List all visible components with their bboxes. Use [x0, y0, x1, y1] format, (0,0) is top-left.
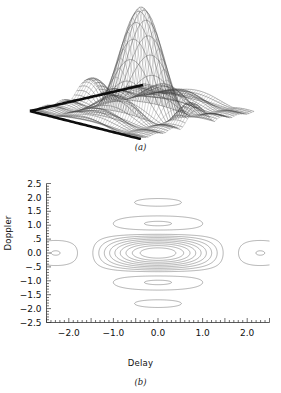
contour-lines: [47, 199, 270, 308]
y-tick-label: 1.5: [27, 206, 41, 216]
contour-level-0.4: [110, 239, 207, 267]
y-tick-label: −2.0: [20, 304, 42, 314]
contour-svg: 2.52.01.51.0.50.0−.5−1.0−1.5−2.0−2.5 −2.…: [0, 178, 281, 378]
y-tick-label: .5: [33, 234, 42, 244]
x-axis-label: Delay: [0, 358, 281, 368]
surface-mesh-lines: [30, 7, 255, 139]
x-axis-ticks: [47, 318, 270, 323]
y-tick-label: 0.0: [27, 248, 42, 258]
panel-a-surface-plot: [0, 0, 281, 140]
y-tick-label: −1.5: [20, 290, 42, 300]
x-tick-label: −1.0: [102, 328, 124, 338]
y-tick-label: −.5: [25, 262, 41, 272]
mesh-columns: [30, 7, 254, 138]
x-tick-label: 1.0: [195, 328, 210, 338]
y-axis-label: Doppler: [3, 203, 13, 263]
panel-b-contour-plot: 2.52.01.51.0.50.0−.5−1.0−1.5−2.0−2.5 −2.…: [0, 178, 281, 378]
y-axis-ticks: [47, 184, 52, 323]
y-axis-tick-labels: 2.52.01.51.0.50.0−.5−1.0−1.5−2.0−2.5: [20, 179, 42, 328]
y-tick-label: 2.0: [27, 193, 42, 203]
y-tick-label: −2.5: [20, 318, 42, 328]
y-tick-label: −1.0: [20, 276, 42, 286]
surface-mesh-svg: [0, 0, 281, 140]
y-tick-label: 2.5: [27, 179, 41, 189]
contour-level-0.2: [51, 221, 265, 284]
x-tick-label: 2.0: [240, 328, 255, 338]
contour-level-0.5: [115, 241, 201, 266]
x-tick-label: −2.0: [58, 328, 80, 338]
x-tick-label: 0.0: [151, 328, 166, 338]
contour-level-0.1: [47, 199, 270, 308]
contour-level-0.9: [140, 248, 176, 258]
x-axis-tick-labels: −2.0−1.00.01.02.0: [58, 328, 255, 338]
y-tick-label: 1.0: [27, 220, 42, 230]
contour-level-0.7: [126, 244, 190, 262]
panel-a-caption: (a): [0, 142, 281, 152]
contour-axes: [47, 184, 270, 323]
panel-b-caption: (b): [0, 377, 281, 387]
figure-ambiguity-function: (a) 2.52.01.51.0.50.0−.5−1.0−1.5−2.0−2.5…: [0, 0, 281, 393]
